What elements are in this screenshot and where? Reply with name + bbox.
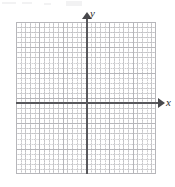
y-axis-line [86,18,88,174]
x-axis-arrow-icon [158,98,165,108]
scan-artifact [22,2,32,4]
y-axis-label: y [90,8,95,19]
scan-artifact [44,3,51,5]
scan-artifact [2,2,16,4]
x-axis-label: x [166,97,171,108]
scan-artifact [66,1,82,6]
x-axis-line [16,102,162,104]
coordinate-grid-figure: y x [0,0,175,187]
